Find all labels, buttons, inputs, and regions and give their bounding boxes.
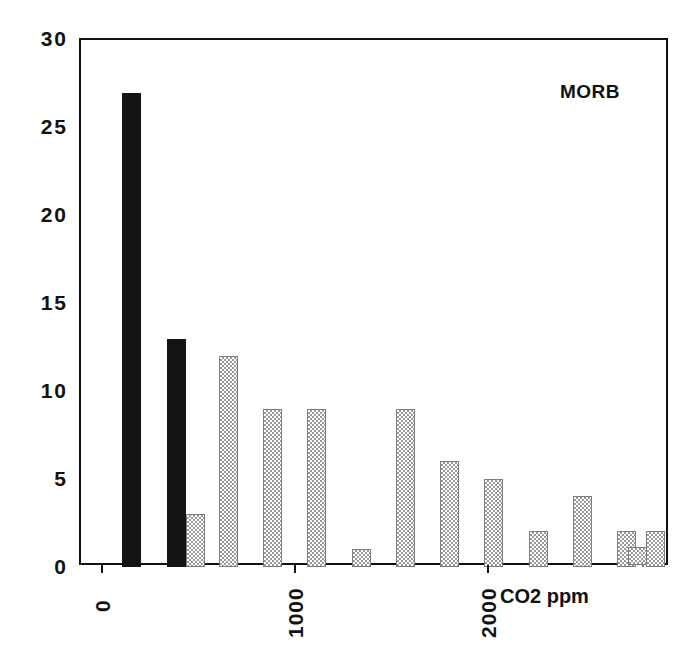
y-tick-label-25: 25 [41, 116, 68, 137]
bar [529, 531, 548, 567]
x-tick-label-0: 0 [92, 599, 113, 612]
bar [186, 514, 205, 567]
bar [440, 461, 459, 567]
y-tick-label-30: 30 [41, 28, 68, 49]
bar [646, 531, 665, 567]
bar [352, 549, 371, 567]
bar [307, 409, 326, 567]
bar [642, 565, 644, 567]
y-axis: 30 25 20 15 10 5 0 [0, 0, 68, 667]
bar [396, 409, 415, 567]
chart-figure: 30 25 20 15 10 5 0 [0, 0, 695, 667]
bar [167, 339, 186, 567]
x-tick-label-1000: 1000 [285, 587, 306, 638]
y-tick-label-15: 15 [41, 292, 68, 313]
series-annotation-morb: MORB [560, 82, 620, 101]
bar [263, 409, 282, 567]
x-tick-mark-2000 [487, 565, 489, 573]
y-tick-label-0: 0 [54, 556, 68, 577]
y-tick-label-20: 20 [41, 204, 68, 225]
bar [573, 496, 592, 567]
bar [219, 356, 238, 567]
x-tick-label-2000: 2000 [478, 587, 499, 638]
bar [122, 93, 141, 567]
y-tick-label-10: 10 [41, 380, 68, 401]
plot-area [79, 38, 668, 565]
bar [628, 547, 647, 565]
x-tick-mark-1000 [294, 565, 296, 573]
y-tick-label-5: 5 [54, 468, 68, 489]
bar [484, 479, 503, 567]
x-axis-title: CO2 ppm [500, 586, 589, 606]
x-tick-mark-0 [101, 565, 103, 573]
bars-layer [81, 40, 670, 567]
